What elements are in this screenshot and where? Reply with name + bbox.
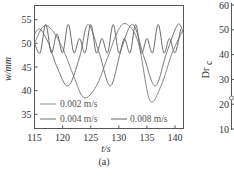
svg-text:135: 135 [139, 132, 154, 143]
svg-text:40: 40 [22, 85, 32, 96]
y-axis-label-a: w/mm [2, 57, 13, 81]
figure: 115120125130135140 3540455055 0.002 m/s … [0, 0, 234, 177]
svg-text:125: 125 [83, 132, 98, 143]
svg-text:Dr: Dr [200, 67, 211, 78]
panel-label-a: (a) [98, 156, 109, 168]
svg-text:115: 115 [27, 132, 42, 143]
series-line [35, 23, 184, 102]
y-axis-ticks: 3540455055 [22, 14, 38, 120]
svg-text:120: 120 [55, 132, 70, 143]
series-line [35, 24, 181, 53]
svg-text:50: 50 [219, 24, 229, 35]
svg-text:55: 55 [22, 14, 32, 25]
data-marker-b [230, 96, 234, 100]
svg-text:130: 130 [111, 132, 126, 143]
x-axis-label-a: t/s [101, 143, 111, 154]
legend-label-0004: 0.004 m/s [60, 114, 98, 124]
y-axis-label-b: Dr c [200, 60, 214, 78]
legend-label-0002: 0.002 m/s [60, 99, 98, 109]
svg-text:35: 35 [22, 109, 32, 120]
svg-text:60: 60 [219, 0, 229, 11]
series-lines [35, 23, 184, 102]
svg-text:30: 30 [219, 74, 229, 85]
svg-text:50: 50 [22, 38, 32, 49]
legend-label-0008: 0.008 m/s [130, 114, 168, 124]
svg-text:c: c [203, 60, 214, 65]
svg-text:140: 140 [168, 132, 183, 143]
svg-text:20: 20 [219, 99, 229, 110]
svg-text:10: 10 [219, 124, 229, 135]
svg-text:45: 45 [22, 62, 32, 73]
svg-text:40: 40 [219, 49, 229, 60]
legend: 0.002 m/s 0.004 m/s 0.008 m/s [40, 99, 168, 124]
